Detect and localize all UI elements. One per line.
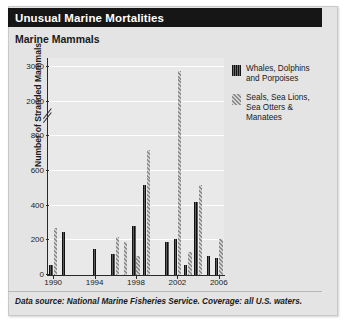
y-tick-mark [46, 239, 49, 240]
x-tick-mark [53, 276, 54, 279]
y-tick-mark [46, 170, 49, 171]
y-tick-label: 200 [31, 235, 44, 244]
bar [207, 256, 210, 275]
bar [124, 242, 127, 275]
y-axis-label: Number of Stranded Mammals [33, 20, 43, 190]
bar [143, 185, 146, 275]
footer-divider [8, 291, 322, 292]
bar [116, 237, 119, 275]
bar [219, 239, 222, 275]
bar [132, 226, 135, 275]
gridline [48, 170, 224, 171]
bar [184, 265, 187, 275]
source-note: Data source: National Marine Fisheries S… [15, 297, 302, 306]
x-tick-label: 2006 [210, 278, 228, 287]
legend-swatch-icon [232, 94, 241, 105]
legend: Whales, Dolphins and PorpoisesSeals, Sea… [232, 64, 332, 132]
bar [111, 254, 114, 275]
y-tick-mark [46, 274, 49, 275]
bar [215, 258, 218, 275]
bar [147, 150, 150, 275]
bar [165, 242, 168, 275]
legend-item: Whales, Dolphins and Porpoises [232, 64, 332, 84]
bar [54, 228, 57, 275]
x-tick-label: 1994 [86, 278, 104, 287]
bar [136, 256, 139, 275]
bar [199, 185, 202, 275]
y-tick-mark [46, 66, 49, 67]
legend-label: Whales, Dolphins and Porpoises [246, 64, 310, 84]
y-tick-mark [46, 135, 49, 136]
bar [174, 239, 177, 275]
x-tick-label: 2002 [169, 278, 187, 287]
legend-label: Seals, Sea Lions, Sea Otters & Manatees [246, 93, 310, 123]
bar [178, 71, 181, 276]
y-tick-mark [46, 205, 49, 206]
gridline [48, 101, 224, 102]
bar [188, 252, 191, 275]
plot-area [48, 58, 224, 275]
x-tick-mark [177, 276, 178, 279]
bar [62, 232, 65, 275]
bar [93, 249, 96, 275]
chart-title-bar: Unusual Marine Mortalities [8, 8, 322, 27]
y-axis-line [47, 58, 48, 276]
x-tick-label: 1998 [127, 278, 145, 287]
gridline [48, 66, 224, 67]
chart-figure: Unusual Marine Mortalities Marine Mammal… [0, 0, 344, 324]
y-tick-mark [46, 101, 49, 102]
x-tick-mark [95, 276, 96, 279]
gridline [48, 135, 224, 136]
x-tick-mark [219, 276, 220, 279]
y-tick-label: 400 [31, 200, 44, 209]
bar [49, 265, 52, 275]
legend-swatch-icon [232, 65, 241, 76]
legend-item: Seals, Sea Lions, Sea Otters & Manatees [232, 93, 332, 123]
x-tick-mark [136, 276, 137, 279]
bar [194, 202, 197, 275]
x-tick-label: 1990 [44, 278, 62, 287]
